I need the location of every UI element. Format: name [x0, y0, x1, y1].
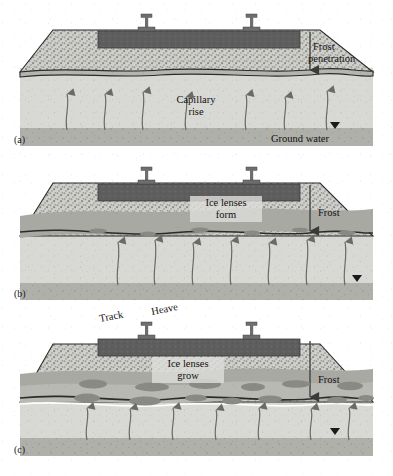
sleeper-slab-c — [98, 339, 300, 356]
frost-label-c: Frost — [318, 374, 340, 385]
sleeper-slab-a — [98, 31, 300, 48]
frost-penetration-label-line2: penetration — [308, 53, 356, 64]
groundwater-band-b — [20, 283, 373, 300]
ice-lenses-form-label-line2: form — [216, 209, 236, 220]
ice-lenses-grow-label-line1: Ice lenses — [167, 358, 208, 369]
ice-lenses-grow-label-line2: grow — [177, 370, 199, 381]
ground-water-label: Ground water — [271, 133, 330, 144]
panel-label-a: (a) — [14, 134, 25, 146]
frost-penetration-label-line1: Frost — [313, 41, 335, 52]
panel-label-c: (c) — [14, 444, 25, 456]
ice-lenses-form-label-line1: Ice lenses — [205, 197, 246, 208]
capillary-rise-label-line2: rise — [188, 106, 204, 117]
frost-heave-figure: Frost penetration Capillary rise Ground … — [0, 0, 393, 476]
capillary-rise-label-line1: Capillary — [176, 94, 216, 105]
panel-a: Frost penetration Capillary rise Ground … — [14, 14, 373, 146]
frost-label-b: Frost — [318, 207, 340, 218]
panel-b: Ice lenses form Frost (b) — [14, 167, 373, 300]
groundwater-band-c — [20, 438, 373, 456]
panel-label-b: (b) — [14, 288, 26, 300]
